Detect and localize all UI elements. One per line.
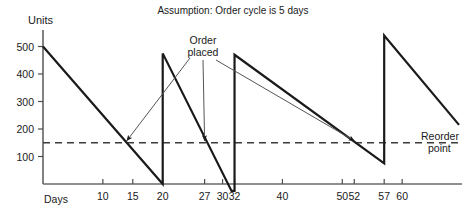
x-tick-label: 30 xyxy=(217,190,229,202)
x-tick-label: 20 xyxy=(157,190,169,202)
chart-title: Assumption: Order cycle is 5 days xyxy=(157,5,308,16)
x-tick-label: 10 xyxy=(97,190,109,202)
y-tick-label: 300 xyxy=(16,96,34,108)
y-tick-label: 400 xyxy=(16,68,34,80)
y-tick-label: 200 xyxy=(16,123,34,135)
inventory-sawtooth-chart: Assumption: Order cycle is 5 days Units … xyxy=(0,0,467,216)
x-tick-label: 40 xyxy=(277,190,289,202)
x-tick-label: 50 xyxy=(336,190,348,202)
x-tick-label: 27 xyxy=(199,190,211,202)
x-tick-label: 57 xyxy=(378,190,390,202)
x-axis-title: Days xyxy=(44,193,68,205)
reorder-point-label-line1: Reorder xyxy=(421,130,459,142)
y-tick-label: 500 xyxy=(16,41,34,53)
x-tick-label: 60 xyxy=(396,190,408,202)
y-axis-title: Units xyxy=(28,14,54,26)
order-placed-label-line2: placed xyxy=(188,46,219,58)
x-tick-label: 15 xyxy=(127,190,139,202)
order-placed-label-line1: Order xyxy=(190,34,217,46)
chart-svg: Assumption: Order cycle is 5 days Units … xyxy=(0,0,467,216)
y-tick-label: 100 xyxy=(16,151,34,163)
x-tick-label: 52 xyxy=(348,190,360,202)
reorder-point-label-line2: point xyxy=(428,142,451,154)
